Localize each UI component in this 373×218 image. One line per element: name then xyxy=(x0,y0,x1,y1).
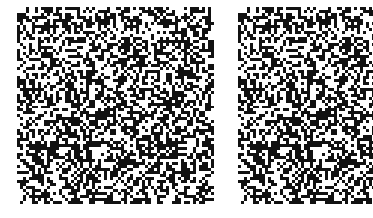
figure xyxy=(0,0,373,218)
noise-image-left xyxy=(17,7,214,204)
noise-panel-left xyxy=(17,7,214,204)
noise-image-right xyxy=(238,7,373,204)
noise-panel-right xyxy=(238,7,373,204)
